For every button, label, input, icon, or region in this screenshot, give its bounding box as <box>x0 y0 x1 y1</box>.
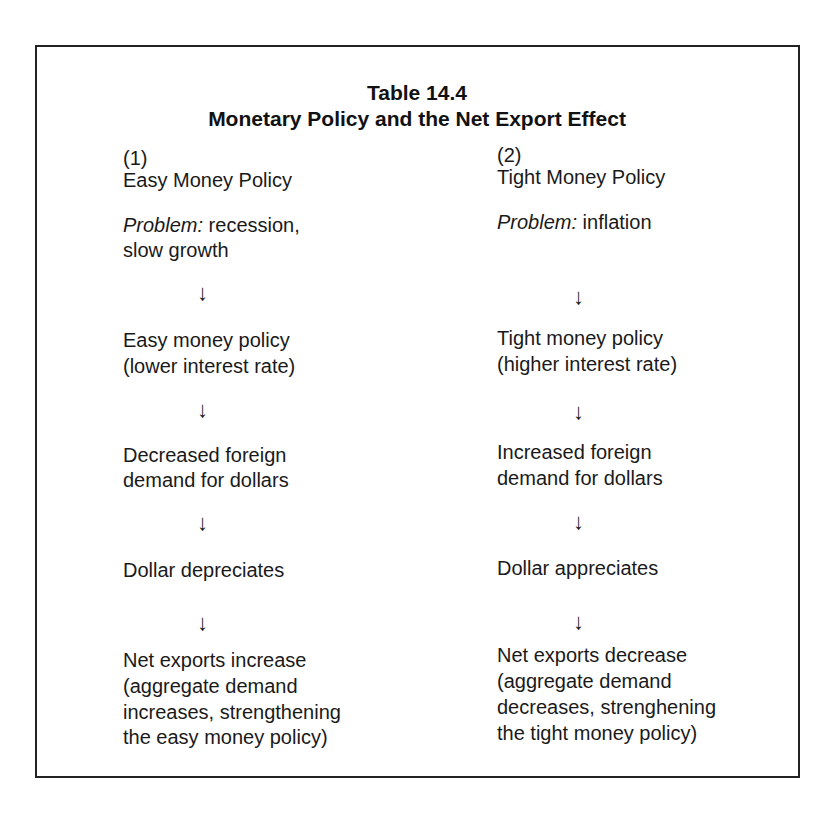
problem-text-2: slow growth <box>123 238 229 262</box>
down-arrow-icon: ↓ <box>197 281 208 305</box>
step-2-line-2: demand for dollars <box>497 466 663 490</box>
down-arrow-icon: ↓ <box>573 510 584 534</box>
step-1-line-1: Tight money policy <box>497 326 663 350</box>
down-arrow-icon: ↓ <box>197 511 208 535</box>
problem-line: Problem: recession, <box>123 213 300 237</box>
down-arrow-icon: ↓ <box>197 611 208 635</box>
step-4-line-4: the easy money policy) <box>123 725 328 749</box>
problem-text: inflation <box>583 211 652 233</box>
step-4-line-3: decreases, strenghening <box>497 695 716 719</box>
step-4-line-1: Net exports increase <box>123 648 306 672</box>
step-2-line-2: demand for dollars <box>123 468 289 492</box>
problem-label: Problem: <box>497 211 577 233</box>
step-4-line-1: Net exports decrease <box>497 643 687 667</box>
step-3-line-1: Dollar depreciates <box>123 558 284 582</box>
column-index: (1) <box>123 146 147 170</box>
step-4-line-4: the tight money policy) <box>497 721 697 745</box>
step-2-line-1: Increased foreign <box>497 440 652 464</box>
problem-line: Problem: inflation <box>497 210 652 234</box>
problem-text: recession, <box>209 214 300 236</box>
down-arrow-icon: ↓ <box>573 610 584 634</box>
column-index: (2) <box>497 143 521 167</box>
down-arrow-icon: ↓ <box>573 400 584 424</box>
step-1-line-1: Easy money policy <box>123 328 290 352</box>
step-1-line-2: (higher interest rate) <box>497 352 677 376</box>
step-4-line-2: (aggregate demand <box>123 674 298 698</box>
step-4-line-3: increases, strengthening <box>123 700 341 724</box>
step-3-line-1: Dollar appreciates <box>497 556 658 580</box>
column-heading: Tight Money Policy <box>497 165 665 189</box>
down-arrow-icon: ↓ <box>573 285 584 309</box>
step-4-line-2: (aggregate demand <box>497 669 672 693</box>
step-2-line-1: Decreased foreign <box>123 443 286 467</box>
problem-label: Problem: <box>123 214 203 236</box>
table-number: Table 14.4 <box>0 80 834 106</box>
down-arrow-icon: ↓ <box>197 398 208 422</box>
step-1-line-2: (lower interest rate) <box>123 354 295 378</box>
table-title: Monetary Policy and the Net Export Effec… <box>0 106 834 132</box>
column-heading: Easy Money Policy <box>123 168 292 192</box>
